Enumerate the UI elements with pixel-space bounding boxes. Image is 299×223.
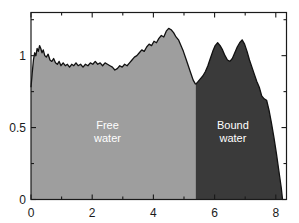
x-tick-label: 8 — [272, 207, 279, 219]
y-tick-label: 1 — [19, 50, 26, 62]
x-tick-label: 6 — [211, 207, 218, 219]
region-label-line1: Bound — [217, 119, 249, 132]
x-tick-label: 4 — [150, 207, 157, 219]
y-tick-label: 0.5 — [9, 122, 26, 134]
region-label-free-water: Freewater — [94, 119, 121, 145]
y-tick-label: 0 — [19, 194, 26, 206]
x-tick-label: 0 — [28, 207, 35, 219]
x-tick-label: 2 — [89, 207, 96, 219]
area-fills — [31, 13, 287, 200]
region-label-line1: Free — [94, 119, 121, 132]
chart-figure: 02468 00.51 FreewaterBoundwater — [0, 0, 299, 223]
region-label-line2: water — [94, 132, 121, 145]
chart-plot-area — [0, 0, 299, 223]
region-label-line2: water — [217, 132, 249, 145]
region-label-bound-water: Boundwater — [217, 119, 249, 145]
